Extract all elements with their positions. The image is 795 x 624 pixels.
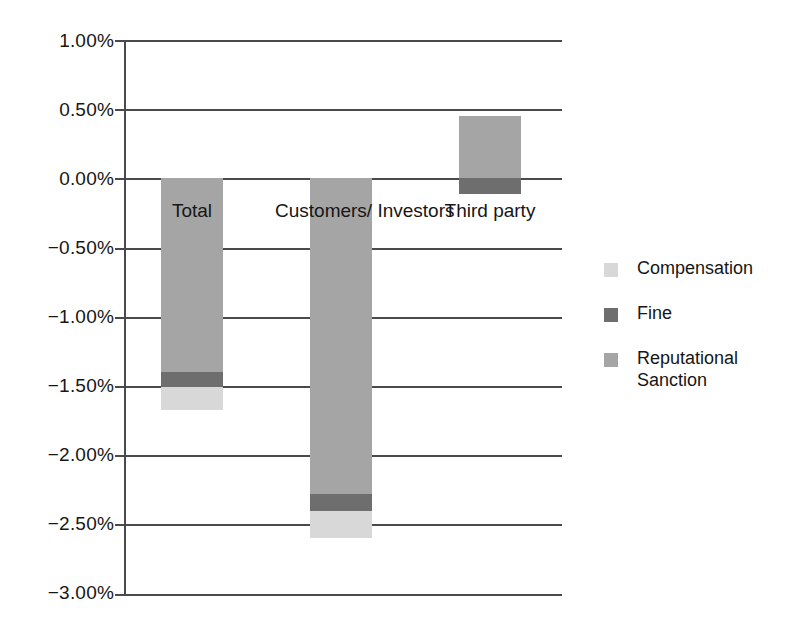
y-tick-label: −2.00% <box>48 444 114 466</box>
bar-third-party[interactable] <box>459 40 521 594</box>
category-label-total: Total <box>147 200 237 222</box>
bar-segment-fine[interactable] <box>161 372 223 387</box>
legend-label: Reputational Sanction <box>637 347 738 391</box>
y-axis-tick <box>115 594 124 596</box>
y-tick-label: −1.50% <box>48 375 114 397</box>
y-axis-line <box>124 40 126 594</box>
legend-swatch-icon <box>604 263 618 277</box>
bar-total[interactable] <box>161 40 223 594</box>
chart-container: 1.00% 0.50% 0.00% −0.50% −1.00% −1.50% −… <box>0 0 795 624</box>
chart-legend: Compensation Fine Reputational Sanction <box>604 258 789 393</box>
bar-segment-fine[interactable] <box>310 494 372 511</box>
y-tick-label: −2.50% <box>48 513 114 535</box>
plot-area: Total Customers/ Investors Third party <box>124 40 562 594</box>
bar-segment-fine[interactable] <box>459 178 521 194</box>
y-tick-label: −0.50% <box>48 237 114 259</box>
legend-swatch-icon <box>604 308 618 322</box>
y-axis-labels: 1.00% 0.50% 0.00% −0.50% −1.00% −1.50% −… <box>0 40 114 594</box>
y-axis-tick <box>115 40 124 42</box>
y-axis-tick <box>115 109 124 111</box>
bar-segment-compensation[interactable] <box>310 511 372 538</box>
y-axis-tick <box>115 455 124 457</box>
legend-swatch-icon <box>604 353 618 367</box>
bar-customers-investors[interactable] <box>310 40 372 594</box>
legend-item-compensation[interactable]: Compensation <box>604 258 789 303</box>
legend-item-fine[interactable]: Fine <box>604 303 789 348</box>
y-axis-tick <box>115 317 124 319</box>
y-tick-label: 0.50% <box>59 99 114 121</box>
gridline-minus3.00 <box>124 594 562 596</box>
bar-segment-reputational-sanction[interactable] <box>459 116 521 178</box>
legend-item-reputational-sanction[interactable]: Reputational Sanction <box>604 348 789 393</box>
bar-segment-reputational-sanction[interactable] <box>310 178 372 494</box>
category-label-third-party: Third party <box>436 200 544 222</box>
legend-label: Fine <box>637 302 672 324</box>
y-axis-tick <box>115 386 124 388</box>
legend-label: Compensation <box>637 257 753 279</box>
y-tick-label: 0.00% <box>59 168 114 190</box>
category-label-customers-investors: Customers/ Investors <box>275 200 407 222</box>
y-tick-label: −3.00% <box>48 582 114 604</box>
y-axis-tick <box>115 178 124 180</box>
bar-segment-compensation[interactable] <box>161 387 223 410</box>
y-axis-tick <box>115 524 124 526</box>
y-tick-label: 1.00% <box>59 30 114 52</box>
y-tick-label: −1.00% <box>48 306 114 328</box>
y-axis-tick <box>115 248 124 250</box>
